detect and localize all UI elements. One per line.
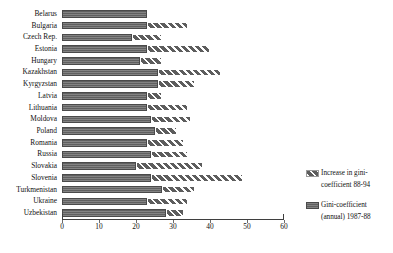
bar-segment-base bbox=[62, 69, 158, 77]
bar-segment-increase bbox=[158, 69, 221, 77]
bar-row: Turkmenistan bbox=[62, 184, 284, 196]
bar-category-label: Moldova bbox=[30, 115, 57, 123]
legend-label-line1: Increase in gini- bbox=[321, 168, 368, 180]
bar-segment-increase bbox=[147, 198, 188, 206]
legend-entry: Increase in gini-coefficient 88-94 bbox=[306, 168, 392, 191]
bar-row: Latvia bbox=[62, 90, 284, 102]
chart-legend: Increase in gini-coefficient 88-94Gini-c… bbox=[306, 168, 392, 232]
bar-segment-increase bbox=[162, 186, 195, 194]
bar-row: Ukraine bbox=[62, 196, 284, 208]
bar-segment-increase bbox=[155, 127, 177, 135]
bar-row: Belarus bbox=[62, 8, 284, 20]
bar-category-label: Lithuania bbox=[29, 104, 57, 112]
bar-row: Estonia bbox=[62, 43, 284, 55]
bar-segment-base bbox=[62, 209, 166, 217]
bar-rows: BelarusBulgariaCzech Rep.EstoniaHungaryK… bbox=[62, 8, 284, 219]
bar-category-label: Romania bbox=[30, 139, 57, 147]
x-axis-tick-label: 10 bbox=[95, 222, 102, 231]
bar-segment-increase bbox=[158, 80, 195, 88]
bar-segment-base bbox=[62, 10, 147, 18]
bar-stack bbox=[62, 92, 162, 100]
bar-row: Romania bbox=[62, 137, 284, 149]
bar-segment-base bbox=[62, 198, 147, 206]
bar-category-label: Kazakhstan bbox=[23, 68, 57, 76]
bar-segment-base bbox=[62, 34, 132, 42]
x-axis-tick-label: 40 bbox=[206, 222, 213, 231]
bar-stack bbox=[62, 104, 188, 112]
bar-segment-increase bbox=[147, 92, 162, 100]
bar-segment-increase bbox=[147, 139, 184, 147]
x-axis-tick-label: 60 bbox=[280, 222, 287, 231]
bar-category-label: Bulgaria bbox=[32, 22, 57, 30]
bar-segment-base bbox=[62, 45, 147, 53]
bar-row: Bulgaria bbox=[62, 20, 284, 32]
bar-category-label: Czech Rep. bbox=[23, 33, 57, 41]
bar-category-label: Russia bbox=[37, 150, 57, 158]
bar-row: Kazakhstan bbox=[62, 67, 284, 79]
bar-row: Kyrgyzstan bbox=[62, 78, 284, 90]
x-axis-tick-label: 50 bbox=[243, 222, 250, 231]
bar-row: Lithuania bbox=[62, 102, 284, 114]
bar-segment-increase bbox=[147, 104, 188, 112]
bar-stack bbox=[62, 186, 195, 194]
bar-segment-increase bbox=[140, 57, 162, 65]
bar-stack bbox=[62, 209, 184, 217]
bar-stack bbox=[62, 162, 203, 170]
x-axis-tick-label: 0 bbox=[60, 222, 64, 231]
bar-segment-increase bbox=[151, 116, 192, 124]
bar-row: Slovenia bbox=[62, 172, 284, 184]
bar-segment-increase bbox=[132, 34, 162, 42]
bar-segment-base bbox=[62, 57, 140, 65]
bar-segment-base bbox=[62, 162, 136, 170]
bar-segment-base bbox=[62, 174, 151, 182]
bar-stack bbox=[62, 10, 147, 18]
bar-stack bbox=[62, 151, 188, 159]
bar-segment-increase bbox=[151, 174, 244, 182]
bar-row: Slovakia bbox=[62, 160, 284, 172]
bar-row: Czech Rep. bbox=[62, 31, 284, 43]
x-axis-tick-label: 30 bbox=[169, 222, 176, 231]
bar-row: Russia bbox=[62, 149, 284, 161]
bar-category-label: Latvia bbox=[38, 92, 57, 100]
bar-category-label: Slovakia bbox=[31, 162, 57, 170]
legend-label-line2: coefficient 88-94 bbox=[321, 180, 392, 192]
bar-segment-base bbox=[62, 127, 155, 135]
bar-stack bbox=[62, 45, 210, 53]
bar-stack bbox=[62, 22, 188, 30]
bar-segment-increase bbox=[151, 151, 188, 159]
legend-entry: Gini-coefficient(annual) 1987-88 bbox=[306, 200, 392, 223]
bar-segment-base bbox=[62, 186, 162, 194]
bar-row: Poland bbox=[62, 125, 284, 137]
bar-stack bbox=[62, 198, 188, 206]
bar-row: Hungary bbox=[62, 55, 284, 67]
bar-stack bbox=[62, 116, 191, 124]
bar-segment-increase bbox=[166, 209, 185, 217]
bar-stack bbox=[62, 127, 177, 135]
bar-category-label: Belarus bbox=[34, 10, 57, 18]
bar-stack bbox=[62, 69, 221, 77]
gini-coefficient-bar-chart: BelarusBulgariaCzech Rep.EstoniaHungaryK… bbox=[0, 0, 393, 253]
bar-segment-increase bbox=[147, 22, 188, 30]
bar-segment-base bbox=[62, 92, 147, 100]
bar-category-label: Poland bbox=[36, 127, 57, 135]
plot-area: BelarusBulgariaCzech Rep.EstoniaHungaryK… bbox=[62, 8, 284, 226]
bar-stack bbox=[62, 80, 195, 88]
bar-category-label: Kyrgyzstan bbox=[23, 80, 57, 88]
bar-segment-base bbox=[62, 22, 147, 30]
bar-category-label: Uzbekistan bbox=[24, 209, 57, 217]
bar-stack bbox=[62, 139, 184, 147]
bar-category-label: Turkmenistan bbox=[16, 186, 57, 194]
bar-segment-base bbox=[62, 139, 147, 147]
bar-category-label: Slovenia bbox=[31, 174, 57, 182]
x-axis-tick-label: 20 bbox=[132, 222, 139, 231]
legend-swatch-base-icon bbox=[306, 202, 319, 209]
bar-segment-base bbox=[62, 151, 151, 159]
legend-label-line2: (annual) 1987-88 bbox=[321, 212, 392, 224]
bar-stack bbox=[62, 34, 162, 42]
bar-row: Moldova bbox=[62, 113, 284, 125]
bar-stack bbox=[62, 57, 162, 65]
bar-category-label: Hungary bbox=[31, 57, 57, 65]
legend-label-line1: Gini-coefficient bbox=[321, 200, 367, 212]
bar-segment-base bbox=[62, 80, 158, 88]
bar-category-label: Estonia bbox=[35, 45, 57, 53]
